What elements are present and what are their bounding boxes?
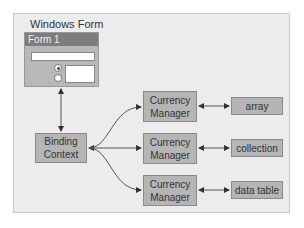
connector-arrows bbox=[0, 0, 304, 228]
